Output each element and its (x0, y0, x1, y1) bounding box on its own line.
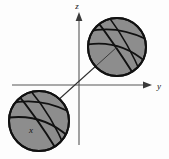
z-axis-label: z (74, 1, 79, 11)
y-axis-label: y (156, 81, 161, 91)
figure-canvas: z y x (0, 0, 169, 159)
x-axis-label: x (28, 125, 33, 135)
coordinate-sphere-diagram: z y x (0, 0, 169, 159)
